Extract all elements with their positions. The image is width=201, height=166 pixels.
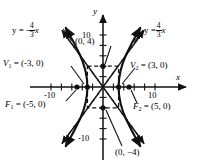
x-tick-label-10: 10 (148, 91, 157, 100)
co-vertex-top-label: (0, 4) (75, 37, 95, 46)
point-vertex-left (85, 84, 90, 89)
x-tick-label-neg10: -10 (44, 91, 55, 100)
leader-focus-left (66, 90, 76, 101)
y-axis-label: y (93, 7, 97, 16)
focus-right-label: F2 = (5, 0) (133, 102, 171, 112)
point-co-vertex-bottom (100, 105, 105, 110)
asymptote-right-label: y =43x (144, 22, 166, 39)
leader-vertex-left (71, 66, 84, 84)
leader-co-vertex-top (105, 46, 111, 64)
co-vertex-bottom-label: (0, −4) (115, 148, 140, 157)
leader-co-vertex-bottom (106, 110, 122, 146)
point-focus-left (74, 84, 79, 89)
point-vertex-right (116, 84, 121, 89)
asymptote-left-label: y = -43x (12, 22, 39, 39)
x-axis-label: x (176, 73, 180, 82)
right-branch-lower (119, 87, 140, 145)
vertex-right-label: V2 = (3, 0) (130, 61, 168, 71)
point-co-vertex-top (100, 64, 105, 69)
point-focus-right (126, 84, 131, 89)
focus-left-label: F1 = (-5, 0) (5, 100, 46, 110)
right-branch-upper (119, 29, 140, 87)
vertex-left-label: V1 = (-3, 0) (3, 59, 44, 69)
y-tick-label-neg10: -10 (78, 134, 89, 143)
